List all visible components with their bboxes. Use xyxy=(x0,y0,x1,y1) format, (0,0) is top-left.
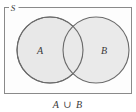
venn-diagram-canvas: S A B A ∪ B xyxy=(0,0,136,112)
set-label-a: A xyxy=(36,45,44,56)
venn-diagram-figure: S A B A ∪ B xyxy=(0,0,136,112)
universal-set-label: S xyxy=(11,3,16,13)
set-label-b: B xyxy=(101,45,107,56)
figure-caption: A ∪ B xyxy=(52,99,83,110)
